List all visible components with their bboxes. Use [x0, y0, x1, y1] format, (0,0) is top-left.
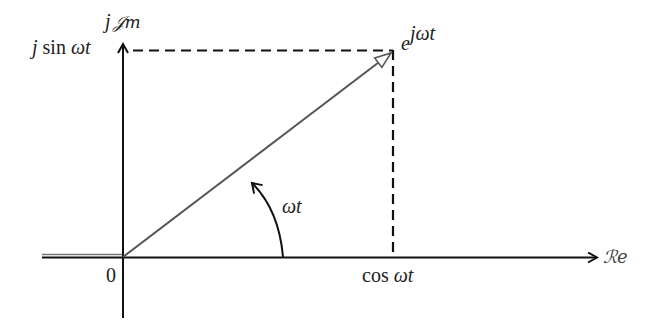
negative-real-axis — [42, 255, 123, 258]
phasor-exponent: jωt — [410, 22, 435, 44]
cos-label: cos ωt — [362, 264, 413, 287]
phasor-base: e — [401, 32, 410, 54]
phasor-diagram — [0, 0, 657, 332]
origin-label: 0 — [106, 264, 116, 287]
sin-arg: ωt — [71, 36, 91, 58]
real-axis-label: ℛe — [603, 246, 628, 267]
phasor-vector — [123, 53, 391, 257]
imag-symbol: 𝒥m — [113, 12, 141, 32]
phasor-label: ejωt — [401, 22, 435, 45]
imaginary-axis-label: j𝒥m — [105, 10, 141, 33]
sin-prefix: j — [32, 36, 38, 58]
imag-prefix: j — [105, 10, 111, 32]
cos-arg: ωt — [394, 264, 414, 286]
sin-func: sin — [43, 36, 66, 58]
angle-label: ωt — [282, 195, 302, 218]
sin-label: j sin ωt — [32, 36, 91, 59]
angle-arc — [252, 183, 283, 257]
cos-func: cos — [362, 264, 389, 286]
